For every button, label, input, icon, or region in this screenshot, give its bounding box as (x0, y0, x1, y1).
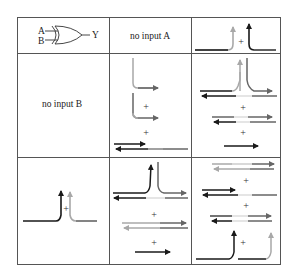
cell-2-2-arrows (196, 164, 277, 259)
xor-diagram: A B Y no input A + no input B + + (0, 0, 296, 279)
gate-output-y-label: Y (92, 30, 99, 40)
plus-sign: + (238, 36, 244, 47)
plus-sign: + (143, 127, 149, 138)
plus-sign: + (151, 209, 157, 220)
no-input-b-label: no input B (42, 99, 82, 109)
plus-sign: + (151, 237, 157, 248)
cell-0-2-arrows (195, 24, 276, 50)
cell-1-1-arrows (114, 58, 188, 149)
plus-sign: + (243, 175, 249, 186)
plus-sign: + (240, 102, 246, 113)
xor-gate-icon (45, 26, 90, 44)
plus-sign: + (143, 101, 149, 112)
gate-input-a-label: A (38, 26, 45, 36)
no-input-a-label: no input A (130, 31, 170, 41)
plus-sign: + (240, 237, 246, 248)
gate-input-b-label: B (38, 36, 44, 46)
plus-sign: + (243, 200, 249, 211)
plus-sign: + (63, 203, 69, 214)
cell-1-2-arrows (200, 58, 277, 146)
plus-sign: + (240, 127, 246, 138)
cell-2-0-arrows (23, 191, 97, 221)
